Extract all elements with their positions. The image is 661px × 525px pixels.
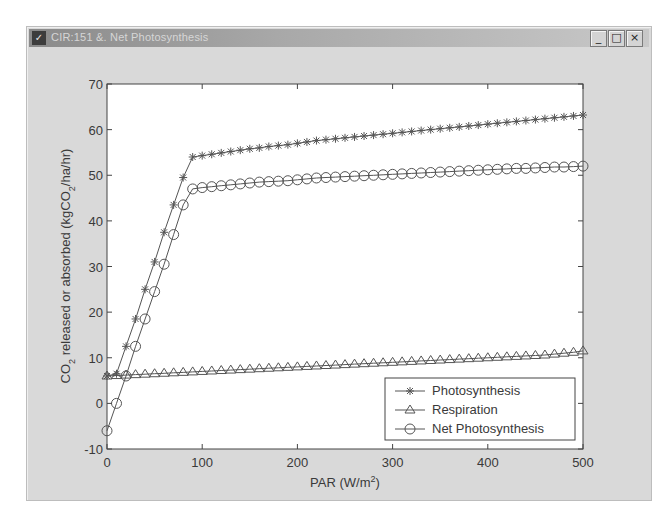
legend-label-net-photosynthesis: Net Photosynthesis <box>432 421 545 436</box>
x-tick-label: 500 <box>572 455 594 470</box>
y-tick-label: 30 <box>89 260 103 275</box>
x-tick-label: 400 <box>477 455 499 470</box>
y-tick-label: 0 <box>96 396 103 411</box>
x-tick-label: 0 <box>103 455 110 470</box>
x-axis-label: PAR (W/m2) <box>310 474 380 490</box>
y-tick-label: 10 <box>89 351 103 366</box>
x-tick-label: 200 <box>287 455 309 470</box>
y-tick-label: 70 <box>89 77 103 92</box>
y-tick-label: 40 <box>89 214 103 229</box>
y-tick-label: 20 <box>89 305 103 320</box>
x-tick-label: 300 <box>382 455 404 470</box>
legend-label-respiration: Respiration <box>432 402 498 417</box>
y-tick-label: 50 <box>89 168 103 183</box>
asterisk-marker-icon <box>406 387 414 395</box>
y-axis-label: CO2 released or absorbed (kgCO2/ha/hr) <box>58 149 77 384</box>
legend-label-photosynthesis: Photosynthesis <box>432 383 521 398</box>
y-tick-label: -10 <box>84 442 103 457</box>
x-tick-label: 100 <box>191 455 213 470</box>
legend: Photosynthesis Respiration Net Photosynt… <box>385 378 575 440</box>
y-tick-label: 60 <box>89 123 103 138</box>
chart-canvas: 0100200300400500-10010203040506070 Photo… <box>0 0 661 525</box>
